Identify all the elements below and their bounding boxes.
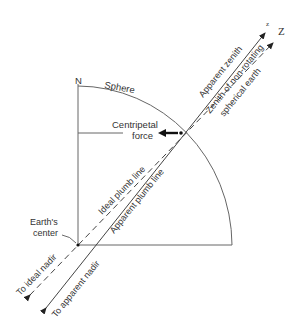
north-label: N	[75, 75, 82, 86]
sphere-label: Sphere	[104, 79, 136, 95]
z-small-label: z	[266, 20, 269, 28]
plumb-line-diagram: N Sphere Centripetal force Apparent zeni…	[0, 0, 298, 325]
z-large-label: Z	[278, 25, 285, 37]
centripetal-force-arrow	[158, 129, 178, 137]
earth-center-label-1: Earth's	[30, 217, 58, 227]
to-ideal-nadir-label: To ideal nadir	[14, 252, 58, 297]
to-apparent-nadir-label: To apparent nadir	[50, 259, 102, 320]
earth-center-point	[76, 243, 79, 246]
earth-center-label-2: center	[33, 228, 58, 238]
centripetal-label-2: force	[132, 130, 153, 141]
earth-center-leader	[62, 235, 76, 243]
centripetal-label-1: Centripetal	[112, 119, 158, 130]
observer-point	[179, 131, 183, 135]
